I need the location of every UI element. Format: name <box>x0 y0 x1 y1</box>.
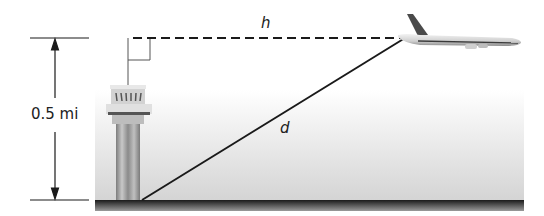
airplane <box>398 14 521 49</box>
arrow-up-icon <box>52 39 59 50</box>
arrow-down-icon <box>52 188 59 199</box>
right-angle-marker <box>128 38 150 60</box>
sky-background <box>95 90 524 201</box>
horizontal-distance-label: h <box>261 16 271 31</box>
ground <box>95 200 524 211</box>
hypotenuse-label: d <box>280 121 290 136</box>
height-label: 0.5 mi <box>31 107 78 122</box>
diagram-canvas <box>0 0 544 216</box>
